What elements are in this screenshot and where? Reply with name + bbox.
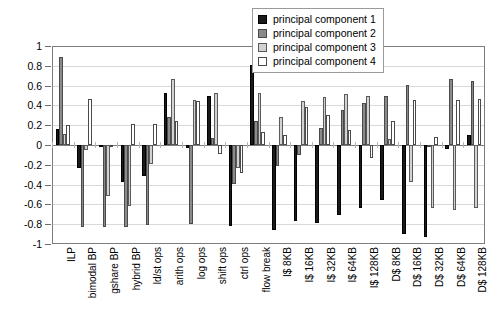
- y-axis-tick-label: -0.6: [24, 199, 42, 210]
- bar: [196, 101, 200, 145]
- y-axis-tick: [45, 244, 51, 245]
- category-separator: [290, 142, 291, 148]
- bar: [149, 145, 153, 164]
- bar: [189, 145, 193, 224]
- x-axis-tick-label: shift ops: [218, 247, 228, 284]
- bar: [478, 99, 482, 145]
- bar: [366, 96, 370, 145]
- bar: [305, 107, 309, 145]
- legend-swatch-icon: [258, 57, 267, 66]
- bar: [384, 96, 388, 145]
- y-axis-tick-label: 0: [36, 140, 42, 151]
- y-axis: 10.80.60.40.20-0.2-0.4-0.6-0.8-1: [0, 46, 47, 244]
- bar: [434, 137, 438, 145]
- bar: [59, 57, 63, 145]
- x-axis-tick-label: D$ 16KB: [413, 247, 423, 287]
- x-axis: ILPbimodal BPgshare BPhybrid BPld/st ops…: [52, 245, 485, 317]
- category-separator: [95, 142, 96, 148]
- y-axis-tick-label: 0.8: [27, 61, 42, 72]
- bar: [297, 145, 301, 155]
- legend-item-label: principal component 4: [273, 56, 376, 67]
- legend-item: principal component 3: [258, 40, 376, 54]
- category-separator: [74, 142, 75, 148]
- category-separator: [139, 142, 140, 148]
- bar: [391, 121, 395, 145]
- y-axis-tick: [45, 224, 51, 225]
- x-axis-tick-label: I$ 16KB: [305, 247, 315, 283]
- bar: [337, 145, 341, 215]
- x-axis-tick-label: D$ 32KB: [435, 247, 445, 287]
- bar: [359, 145, 363, 208]
- category-separator: [160, 142, 161, 148]
- bar: [409, 145, 413, 182]
- bar: [445, 145, 449, 149]
- x-axis-tick-label: D$ 8KB: [392, 247, 402, 281]
- y-axis-tick: [45, 86, 51, 87]
- y-axis-tick: [45, 66, 51, 67]
- legend-item: principal component 2: [258, 26, 376, 40]
- x-axis-tick-label: I$ 128KB: [370, 247, 380, 288]
- bar: [348, 130, 352, 145]
- y-axis-tick-label: 0.2: [27, 120, 42, 131]
- legend-swatch-icon: [258, 15, 267, 24]
- bar: [370, 145, 374, 158]
- bar: [294, 145, 298, 221]
- legend-item: principal component 4: [258, 54, 376, 68]
- x-axis-tick-label: I$ 32KB: [327, 247, 337, 283]
- y-axis-tick-label: 1: [36, 41, 42, 52]
- category-separator: [420, 142, 421, 148]
- pca-loadings-bar-chart: 10.80.60.40.20-0.2-0.4-0.6-0.8-1 ILPbimo…: [0, 0, 495, 317]
- y-axis-tick: [45, 145, 51, 146]
- bar: [413, 100, 417, 145]
- legend-swatch-icon: [258, 29, 267, 38]
- legend-item: principal component 1: [258, 12, 376, 26]
- category-separator: [442, 142, 443, 148]
- bar: [380, 145, 384, 200]
- y-axis-tick-label: -0.4: [24, 179, 42, 190]
- category-separator: [377, 142, 378, 148]
- bar: [214, 93, 218, 145]
- bar: [106, 145, 110, 196]
- x-axis-tick-label: D$ 64KB: [457, 247, 467, 287]
- bar: [453, 145, 457, 210]
- bar: [315, 145, 319, 223]
- y-axis-tick: [45, 46, 51, 47]
- x-axis-tick-label: hybrid BP: [132, 247, 142, 290]
- category-separator: [182, 142, 183, 148]
- category-separator: [247, 142, 248, 148]
- bar: [240, 145, 244, 173]
- bar: [471, 81, 475, 145]
- bar: [261, 132, 265, 145]
- bar: [131, 124, 135, 145]
- bar: [110, 145, 114, 147]
- category-separator: [269, 142, 270, 148]
- bar: [424, 145, 428, 237]
- bar: [66, 125, 70, 145]
- category-separator: [398, 142, 399, 148]
- bar: [431, 145, 435, 208]
- x-axis-tick-label: I$ 64KB: [348, 247, 358, 283]
- y-axis-tick-label: -1: [33, 239, 42, 250]
- legend-item-label: principal component 3: [273, 42, 376, 53]
- legend-item-label: principal component 1: [273, 14, 376, 25]
- category-separator: [312, 142, 313, 148]
- bar: [218, 145, 222, 154]
- bar: [175, 121, 179, 145]
- category-separator: [463, 142, 464, 148]
- bar: [276, 145, 280, 166]
- bar: [153, 124, 157, 145]
- category-separator: [333, 142, 334, 148]
- y-axis-tick: [45, 105, 51, 106]
- legend-item-label: principal component 2: [273, 28, 376, 39]
- y-axis-tick: [45, 125, 51, 126]
- category-separator: [52, 142, 53, 148]
- x-axis-tick-label: log ops: [197, 247, 207, 279]
- x-axis-tick-label: gshare BP: [110, 247, 120, 294]
- x-axis-tick-label: flow break: [262, 247, 272, 293]
- x-axis-tick-label: ILP: [67, 247, 77, 262]
- bars-layer: [52, 46, 485, 244]
- bar: [474, 145, 478, 208]
- chart-legend: principal component 1principal component…: [252, 8, 384, 73]
- bar: [449, 79, 453, 145]
- x-axis-tick-label: arith ops: [175, 247, 185, 285]
